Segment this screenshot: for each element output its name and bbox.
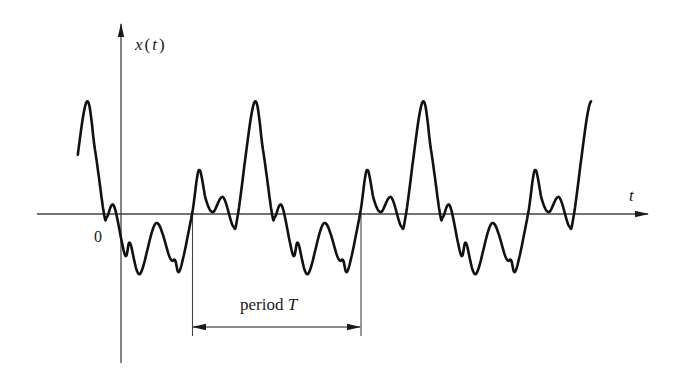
origin-label: 0: [94, 228, 102, 245]
period-label: period T: [240, 295, 299, 314]
period-label-word: period: [240, 295, 284, 314]
periodic-signal-diagram: x(t) t 0 period T: [0, 0, 678, 376]
y-axis-label-var: x: [134, 35, 143, 54]
signal-waveform: [78, 101, 591, 274]
period-label-symbol: T: [288, 295, 299, 314]
x-axis-label: t: [629, 186, 635, 205]
y-axis-label: x(t): [134, 35, 165, 54]
y-axis-label-arg: t: [152, 35, 158, 54]
